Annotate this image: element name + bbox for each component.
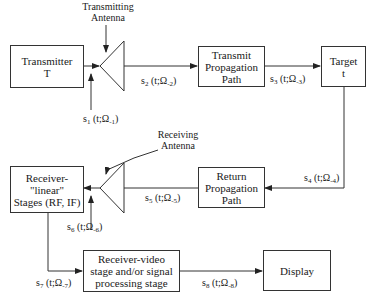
return-path-line1: Return <box>205 170 258 182</box>
transmitter-block: TransmitterT <box>10 45 84 88</box>
rx-antenna-pointer <box>106 150 158 174</box>
transmit-path-line3: Path <box>205 73 258 85</box>
transmitter-label: Transmitter <box>22 55 73 67</box>
signal-s2-label: s2 (t;Ω-2) <box>141 75 176 90</box>
signal-s7-label: s7 (t;Ω-7) <box>36 277 71 292</box>
signal-s6-label: s6 (t;Ω-6) <box>67 221 102 236</box>
transmitting-antenna-label: Transmitting Antenna <box>78 1 138 23</box>
tx-antenna-label-line2: Antenna <box>78 12 138 23</box>
receiver-linear-line1: Receiver- <box>14 172 81 184</box>
receiver-linear-stages-block: Receiver-"linear"Stages (RF, IF) <box>10 166 84 213</box>
transmit-path-line1: Transmit <box>205 49 258 61</box>
receiving-antenna-icon <box>100 163 124 213</box>
target-block: Targett <box>321 46 366 87</box>
receiver-video-line2: stage and/or signal <box>90 265 172 277</box>
receiver-video-stage-block: Receiver-videostage and/or signalprocess… <box>83 250 180 292</box>
signal-s4-label: s4 (t;Ω-4) <box>304 172 339 187</box>
signal-s8-label: s8 (t;Ω-8) <box>202 277 237 292</box>
target-label: Target <box>330 55 358 67</box>
receiving-antenna-label: Receiving Antenna <box>148 129 208 151</box>
transmitter-symbol: T <box>22 67 73 79</box>
signal-s1-label: s1 (t;Ω-1) <box>83 113 118 128</box>
display-label: Display <box>280 265 314 277</box>
target-symbol: t <box>330 67 358 79</box>
rx-antenna-label-line2: Antenna <box>148 140 208 151</box>
return-path-line3: Path <box>205 194 258 206</box>
return-propagation-path-block: ReturnPropagationPath <box>198 167 265 208</box>
tx-antenna-label-line1: Transmitting <box>78 1 138 12</box>
receiver-video-line3: processing stage <box>90 277 172 289</box>
transmit-propagation-path-block: TransmitPropagationPath <box>198 46 265 87</box>
receiver-video-line1: Receiver-video <box>90 253 172 265</box>
transmit-path-line2: Propagation <box>205 61 258 73</box>
signal-s5-label: s5 (t;Ω-5) <box>145 192 180 207</box>
receiver-linear-line3: Stages (RF, IF) <box>14 196 81 208</box>
rx-antenna-label-line1: Receiving <box>148 129 208 140</box>
transmitting-antenna-icon <box>100 41 124 91</box>
receiver-linear-line2: "linear" <box>14 184 81 196</box>
signal-s3-label: s3 (t;Ω-3) <box>270 73 305 88</box>
display-block: Display <box>263 250 331 291</box>
return-path-line2: Propagation <box>205 182 258 194</box>
